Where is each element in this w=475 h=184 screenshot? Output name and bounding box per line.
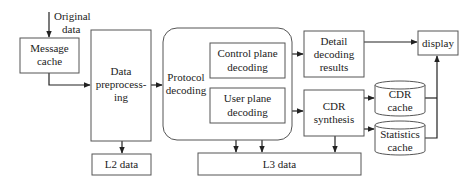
user-plane-decoding-node[interactable]: User plane decoding: [210, 88, 285, 123]
svg-text:preprocess-: preprocess-: [96, 78, 147, 90]
svg-text:CDR: CDR: [389, 88, 412, 100]
svg-text:Protocol: Protocol: [167, 71, 204, 83]
edge-caches-to-display: [425, 56, 437, 138]
svg-text:Data: Data: [111, 65, 132, 77]
svg-text:results: results: [320, 61, 349, 73]
svg-text:decoding: decoding: [166, 84, 207, 96]
svg-text:Original: Original: [54, 10, 91, 22]
cdr-cache-node[interactable]: CDR cache: [375, 81, 425, 116]
svg-text:User plane: User plane: [224, 92, 271, 104]
svg-text:cache: cache: [37, 55, 62, 67]
svg-text:synthesis: synthesis: [314, 113, 354, 125]
l2-data-node[interactable]: L2 data: [92, 154, 151, 175]
edge-message-cache-to-preprocessing: [49, 73, 90, 85]
svg-text:L2 data: L2 data: [105, 158, 138, 170]
statistics-cache-node[interactable]: Statistics cache: [375, 121, 425, 155]
display-node[interactable]: display: [418, 31, 458, 55]
flow-diagram: Original data Message cache Data preproc…: [0, 0, 475, 184]
svg-text:decoding: decoding: [227, 106, 268, 118]
svg-text:Control plane: Control plane: [217, 47, 277, 59]
svg-text:cache: cache: [387, 141, 412, 153]
svg-text:decoding: decoding: [314, 48, 355, 60]
svg-text:display: display: [422, 37, 454, 49]
l3-data-node[interactable]: L3 data: [198, 153, 361, 175]
svg-text:data: data: [62, 23, 80, 35]
message-cache-node[interactable]: Message cache: [20, 38, 79, 73]
svg-text:CDR: CDR: [323, 100, 346, 112]
svg-text:L3 data: L3 data: [263, 158, 296, 170]
svg-text:Statistics: Statistics: [380, 128, 420, 140]
data-preprocessing-node[interactable]: Data preprocess- ing: [91, 30, 151, 141]
cdr-synthesis-node[interactable]: CDR synthesis: [304, 90, 364, 136]
svg-text:Detail: Detail: [321, 35, 348, 47]
svg-text:decoding: decoding: [227, 61, 268, 73]
original-data-label: Original data: [54, 10, 91, 35]
svg-text:Message: Message: [30, 42, 69, 54]
svg-text:ing: ing: [114, 91, 129, 103]
control-plane-decoding-node[interactable]: Control plane decoding: [210, 43, 285, 78]
detail-decoding-results-node[interactable]: Detail decoding results: [304, 31, 364, 77]
svg-text:cache: cache: [387, 101, 412, 113]
